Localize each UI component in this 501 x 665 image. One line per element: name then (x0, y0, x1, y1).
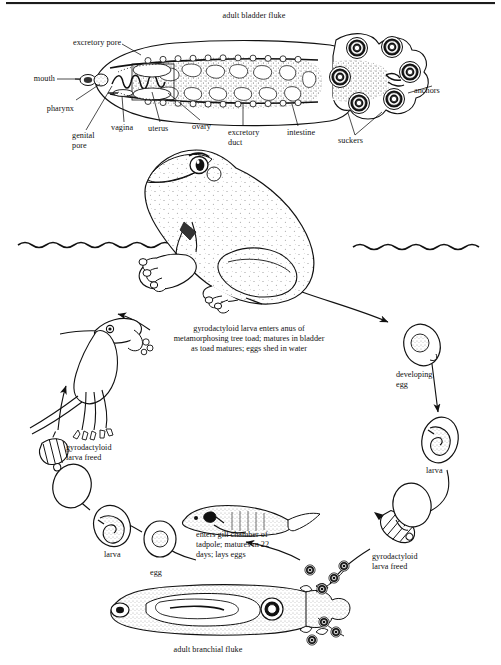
label-uterus: uterus (148, 124, 168, 134)
title-adult-branchial-fluke: adult branchial fluke (138, 645, 278, 655)
label-vagina: vagina (111, 123, 133, 133)
label-larva-left: larva (104, 550, 121, 560)
adult-branchial-fluke-illustration (111, 561, 350, 645)
label-mouth: mouth (10, 74, 55, 84)
label-excretory-pore: excretory pore (73, 38, 121, 48)
text-gill-infection: enters gill chamber of tadpole; matures … (196, 530, 269, 559)
label-gyro-larva-freed-right: gyrodactyloid larva freed (372, 552, 417, 572)
label-larva-right: larva (426, 466, 443, 476)
label-egg-bottom: egg (150, 568, 162, 578)
label-pharynx: pharynx (22, 104, 74, 114)
label-gyro-larva-freed-left: gyrodactyloid larva freed (66, 443, 111, 463)
title-adult-bladder-fluke: adult bladder fluke (199, 11, 309, 21)
developing-egg-illustration (398, 319, 445, 370)
egg-bottom-illustration (144, 521, 176, 557)
label-intestine: intestine (287, 128, 315, 138)
larva-left-illustration (87, 500, 136, 552)
label-ovary: ovary (192, 122, 211, 132)
label-suckers: suckers (338, 136, 363, 146)
water-line-left (18, 243, 186, 248)
water-line-right (353, 245, 479, 250)
larva-right-illustration (418, 414, 463, 466)
label-anchors: anchors (414, 86, 440, 96)
label-developing-egg: developing egg (396, 370, 432, 390)
metamorphosing-toadlet-illustration (30, 318, 153, 440)
tree-toad-illustration (139, 150, 314, 313)
text-bladder-infection: gyrodactyloid larva enters anus of metam… (138, 324, 360, 353)
label-genital-pore: genital pore (72, 131, 95, 150)
label-excretory-duct: excretory duct (228, 128, 259, 147)
life-cycle-figure: adult bladder fluke mouth excretory pore… (0, 0, 501, 665)
